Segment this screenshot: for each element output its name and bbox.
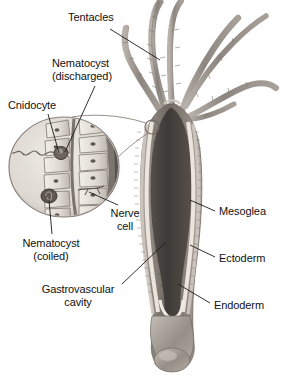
label-nematocyst-coiled: Nematocyst (coiled) — [10, 237, 92, 262]
label-mesoglea: Mesoglea — [219, 205, 266, 218]
label-cnidocyte: Cnidocyte — [8, 99, 56, 112]
label-nerve-cell: Nerve cell — [104, 207, 146, 232]
hydra-diagram: Tentacles Nematocyst (discharged) Cnidoc… — [0, 0, 287, 378]
nematocyst-discharged-capsule — [54, 147, 68, 160]
label-ectoderm: Ectoderm — [219, 252, 265, 265]
label-nematocyst-discharged: Nematocyst (discharged) — [52, 57, 112, 82]
label-endoderm: Endoderm — [214, 299, 264, 312]
tentacles-group — [123, 1, 276, 120]
hydra-body-column — [134, 100, 202, 372]
hydra-illustration — [0, 0, 287, 378]
label-gastrovascular-cavity: Gastrovascular cavity — [35, 283, 121, 308]
label-tentacles: Tentacles — [68, 11, 114, 24]
